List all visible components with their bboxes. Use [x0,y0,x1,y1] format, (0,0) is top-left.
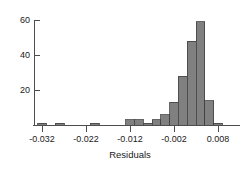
histogram-bar [161,115,170,126]
y-axis-tick-label: 40 [20,50,30,60]
plot-area: 204060 -0.032-0.022-0.012-0.0020.008 Res… [0,0,240,175]
histogram-bar [196,22,205,125]
histogram-bar [126,120,135,125]
histogram-chart: 204060 -0.032-0.022-0.012-0.0020.008 Res… [0,0,240,175]
chart-canvas: 204060 -0.032-0.022-0.012-0.0020.008 Res… [0,0,240,175]
histogram-bar [38,123,47,125]
y-axis-tick-label: 20 [20,85,30,95]
x-axis-tick-label: -0.022 [73,134,99,144]
bars-group [38,22,223,125]
x-axis-tick-label: -0.002 [161,134,187,144]
y-axis-tick-label: 60 [20,15,30,25]
histogram-bar [90,123,99,125]
x-axis-title: Residuals [109,149,151,160]
x-axis-tick-label: -0.032 [29,134,55,144]
x-axis-title-label: Residuals [109,149,151,160]
histogram-bar [187,41,196,125]
x-axis: -0.032-0.022-0.012-0.0020.008 [29,126,240,145]
histogram-bar [170,102,179,125]
histogram-bar [55,123,64,125]
histogram-bar [178,76,187,125]
histogram-bar [214,123,223,125]
histogram-bar [205,101,214,126]
x-axis-tick-label: -0.012 [117,134,143,144]
y-axis: 204060 [20,15,40,125]
x-axis-tick-label: 0.008 [207,134,230,144]
histogram-bar [143,123,152,125]
histogram-bar [152,120,161,125]
histogram-bar [134,120,143,125]
